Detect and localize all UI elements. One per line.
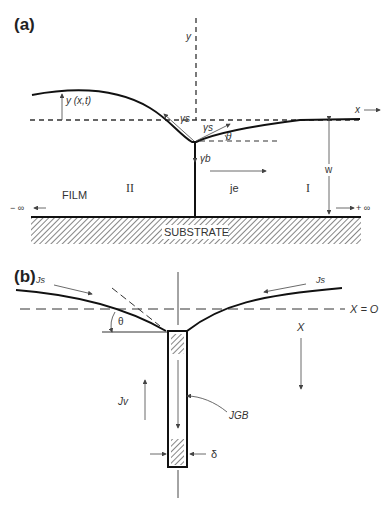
substrate-label: SUBSTRATE [164, 226, 229, 238]
region-ii-label: II [126, 181, 134, 195]
js-left-arrow [54, 285, 92, 294]
x-axis-b-label: X [296, 321, 305, 333]
x-axis-label: x [354, 104, 361, 115]
region-i-label: I [306, 181, 310, 195]
width-label: w [324, 164, 333, 175]
plus-infinity-label: + ∞ [356, 203, 370, 213]
js-right-arrow [264, 284, 306, 292]
delta-label: δ [211, 448, 217, 460]
film-label: FILM [62, 189, 87, 201]
theta-arc-b [111, 312, 115, 332]
jv-label: Jv [117, 396, 129, 407]
js-right-label: Js [315, 275, 326, 285]
gamma-s-right-label: γs [203, 122, 213, 133]
panel-a-label: (a) [14, 15, 35, 34]
figure: (a) y x y (x,t) γs γs θ γb je II I FILM … [0, 0, 385, 505]
theta-b-label: θ [118, 316, 124, 327]
hatched-top [171, 334, 184, 354]
jgb-leader [187, 396, 227, 412]
minus-infinity-label: − ∞ [10, 203, 24, 213]
gamma-s-left-label: γs [180, 113, 190, 124]
profile-label: y (x,t) [65, 95, 91, 106]
y-axis-label: y [185, 31, 192, 42]
js-left-label: Js [35, 275, 46, 285]
theta-label: θ [226, 131, 232, 142]
hatched-bottom [171, 439, 184, 465]
gamma-b-label: γb [200, 153, 211, 164]
je-label: je [229, 182, 239, 194]
jgb-label: JGB [228, 410, 249, 421]
x-zero-label: X = O [349, 303, 379, 315]
panel-b-label: (b) [14, 267, 36, 286]
